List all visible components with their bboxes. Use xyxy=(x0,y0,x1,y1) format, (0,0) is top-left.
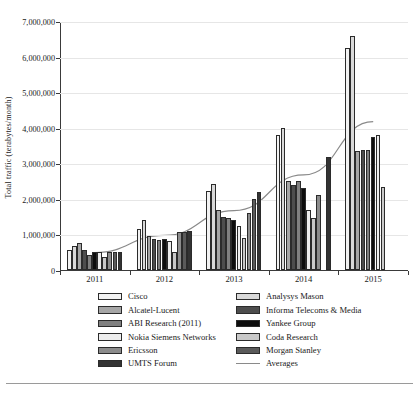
y-tick-mark xyxy=(56,22,60,23)
bar-cisco-2015 xyxy=(345,48,350,270)
bar-umts-forum-2013 xyxy=(257,192,262,270)
x-tick-label-2011: 2011 xyxy=(86,274,103,284)
y-tick-label: 1,000,000 xyxy=(22,231,55,240)
plot-canvas: 20112012201320142015 xyxy=(60,22,408,271)
bar-ericsson-2014 xyxy=(316,195,321,270)
legend-item-cisco[interactable]: Cisco xyxy=(98,290,216,303)
chart-legend: CiscoAlcatel-LucentABI Research (2011)No… xyxy=(0,290,419,378)
bar-ericsson-2013 xyxy=(247,213,252,270)
legend-label-averages: Averages xyxy=(266,359,298,368)
bar-alcatel-lucent-2015 xyxy=(355,151,360,270)
bar-nokia-siemens-networks-2013 xyxy=(237,226,242,270)
bar-informa-telecoms-media-2014 xyxy=(291,185,296,270)
bar-morgan-stanley-2012 xyxy=(182,232,187,270)
legend-swatch-abi-research-2011 xyxy=(98,320,122,328)
legend-item-yankee-group[interactable]: Yankee Group xyxy=(236,317,361,330)
y-tick-label: 5,000,000 xyxy=(22,89,55,98)
figure-container: Total traffic (terabytes/month) 01,000,0… xyxy=(0,0,419,395)
bar-analysys-mason-2011 xyxy=(72,246,77,270)
bar-abi-research-2011-2014 xyxy=(296,181,301,270)
y-tick-label: 0 xyxy=(51,267,55,276)
bar-umts-forum-2011 xyxy=(118,252,123,270)
bar-alcatel-lucent-2014 xyxy=(286,181,291,270)
bar-alcatel-lucent-2013 xyxy=(216,210,221,270)
legend-swatch-alcatel-lucent xyxy=(98,306,122,314)
x-tick-mark xyxy=(408,271,409,275)
bar-cisco-2013 xyxy=(206,191,211,270)
legend-swatch-nokia-siemens-networks xyxy=(98,333,122,341)
x-tick-label-2015: 2015 xyxy=(365,274,382,284)
bar-analysys-mason-2013 xyxy=(211,184,216,270)
legend-label-morgan-stanley: Morgan Stanley xyxy=(266,346,321,355)
y-axis-title-text: Total traffic (terabytes/month) xyxy=(5,96,14,198)
legend-item-coda-research[interactable]: Coda Research xyxy=(236,330,361,343)
legend-label-ericsson: Ericsson xyxy=(128,346,158,355)
bar-coda-research-2011 xyxy=(102,257,107,270)
chart-plot-area: Total traffic (terabytes/month) 01,000,0… xyxy=(0,0,419,288)
bar-informa-telecoms-media-2012 xyxy=(152,239,157,270)
x-tick-label-2014: 2014 xyxy=(295,274,312,284)
bar-coda-research-2014 xyxy=(311,218,316,270)
legend-label-umts-forum: UMTS Forum xyxy=(128,359,177,368)
bar-morgan-stanley-2011 xyxy=(113,252,118,270)
y-tick-label: 3,000,000 xyxy=(22,160,55,169)
legend-swatch-morgan-stanley xyxy=(236,347,260,355)
x-tick-mark xyxy=(269,271,270,275)
legend-item-umts-forum[interactable]: UMTS Forum xyxy=(98,357,216,370)
y-tick-label: 4,000,000 xyxy=(22,124,55,133)
bar-alcatel-lucent-2012 xyxy=(147,236,152,270)
bar-analysys-mason-2015 xyxy=(350,36,355,270)
bar-cisco-2012 xyxy=(137,229,142,270)
bar-nokia-siemens-networks-2011 xyxy=(97,252,102,270)
y-tick-mark xyxy=(56,235,60,236)
bar-yankee-group-2011 xyxy=(92,252,97,270)
legend-item-alcatel-lucent[interactable]: Alcatel-Lucent xyxy=(98,303,216,316)
y-tick-mark xyxy=(56,129,60,130)
bar-yankee-group-2012 xyxy=(162,239,167,270)
legend-item-informa-telecoms-media[interactable]: Informa Telecoms & Media xyxy=(236,303,361,316)
bar-yankee-group-2014 xyxy=(301,188,306,270)
bar-analysys-mason-2012 xyxy=(142,220,147,270)
legend-item-abi-research-2011[interactable]: ABI Research (2011) xyxy=(98,317,216,330)
bar-nokia-siemens-networks-2012 xyxy=(167,241,172,270)
bar-cisco-2011 xyxy=(67,250,72,270)
bar-group-2012 xyxy=(137,22,193,270)
x-tick-mark xyxy=(60,271,61,275)
y-tick-label: 6,000,000 xyxy=(22,53,55,62)
y-tick-mark xyxy=(56,164,60,165)
bar-coda-research-2013 xyxy=(242,238,247,270)
bar-alcatel-lucent-2011 xyxy=(77,243,82,270)
bar-group-2014 xyxy=(276,22,332,270)
legend-item-ericsson[interactable]: Ericsson xyxy=(98,344,216,357)
bar-abi-research-2011-2011 xyxy=(87,255,92,270)
bar-ericsson-2011 xyxy=(107,252,112,270)
legend-item-analysys-mason[interactable]: Analysys Mason xyxy=(236,290,361,303)
bar-informa-telecoms-media-2011 xyxy=(82,250,87,270)
bar-analysys-mason-2014 xyxy=(281,128,286,270)
legend-column-right: Analysys MasonInforma Telecoms & MediaYa… xyxy=(236,290,361,370)
bar-group-2015 xyxy=(345,22,401,270)
legend-label-cisco: Cisco xyxy=(128,292,148,301)
bar-abi-research-2011-2013 xyxy=(226,218,231,270)
legend-label-nokia-siemens-networks: Nokia Siemens Networks xyxy=(128,333,216,342)
legend-swatch-yankee-group xyxy=(236,320,260,328)
bar-nokia-siemens-networks-2014 xyxy=(306,210,311,270)
legend-item-nokia-siemens-networks[interactable]: Nokia Siemens Networks xyxy=(98,330,216,343)
x-tick-mark xyxy=(199,271,200,275)
bar-group-2011 xyxy=(67,22,123,270)
bar-nokia-siemens-networks-2015 xyxy=(376,135,381,270)
legend-item-morgan-stanley[interactable]: Morgan Stanley xyxy=(236,344,361,357)
bar-group-2013 xyxy=(206,22,262,270)
legend-line-swatch-icon xyxy=(236,360,260,368)
legend-swatch-analysys-mason xyxy=(236,293,260,301)
legend-label-coda-research: Coda Research xyxy=(266,333,318,342)
legend-swatch-informa-telecoms-media xyxy=(236,306,260,314)
bar-coda-research-2015 xyxy=(381,187,386,270)
bar-umts-forum-2012 xyxy=(187,231,192,270)
legend-swatch-ericsson xyxy=(98,347,122,355)
legend-column-left: CiscoAlcatel-LucentABI Research (2011)No… xyxy=(98,290,216,370)
bar-abi-research-2011-2012 xyxy=(157,240,162,270)
legend-item-averages[interactable]: Averages xyxy=(236,357,361,370)
x-tick-label-2012: 2012 xyxy=(156,274,173,284)
legend-swatch-cisco xyxy=(98,293,122,301)
